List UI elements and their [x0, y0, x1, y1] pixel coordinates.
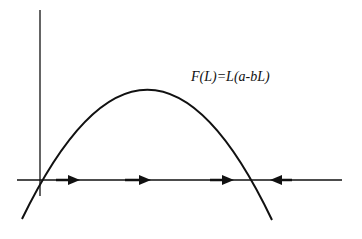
parabola-curve	[22, 90, 272, 220]
function-label: F(L)=L(a-bL)	[190, 69, 270, 85]
flow-arrow-left	[270, 175, 292, 185]
phase-diagram: F(L)=L(a-bL)	[0, 0, 362, 239]
flow-arrow-right	[210, 175, 234, 185]
flow-arrow-right	[125, 175, 151, 185]
flow-arrow-right	[56, 175, 80, 185]
